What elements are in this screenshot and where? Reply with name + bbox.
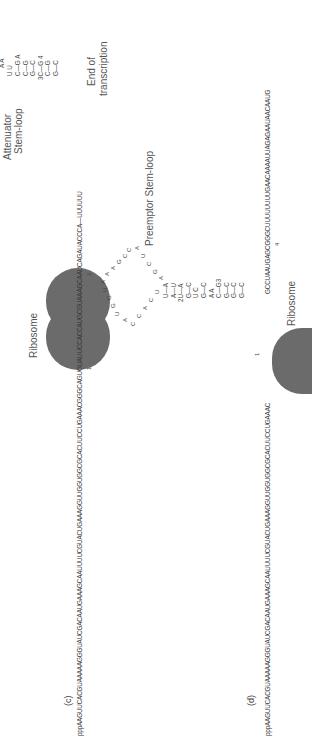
loop-base: C [148,298,154,302]
attenuator-label: Attenuator Stem-loop [2,108,24,160]
loop-base: U [102,288,108,292]
loop-base: G [106,295,112,300]
stem-pair: G—C [200,258,208,298]
figure-canvas: (c) Ribosome pppAAGUUCACGUAAAAAGGGUAUCGA… [0,0,312,746]
panel-c-ribosome-label: Ribosome [28,313,39,358]
panel-c-sequence: pppAAGUUCACGUAAAAAGGGUAUCGACAAUGAAAGCAAU… [76,191,83,736]
stem-pair: G—C [185,258,193,298]
loop-base: U [140,254,146,258]
panel-d-sequence-left: pppAAGUUCACGUAAAAAGGGUAUCGACAAUGAAAGCAAU… [264,403,271,736]
attenuator-loop-mid: U U [6,38,14,78]
panel-d-label: (d) [246,695,256,706]
stem-pair: U C [192,258,200,298]
attenuator-label-line1: Attenuator [2,108,13,160]
stem-pair: C—G3 [215,258,223,298]
panel-c-marker-2: 2 [86,273,92,276]
ribosome-d [272,328,312,394]
panel-d-sequence-right: GCCUAAUGAGCGGGCUUUUUUUUGAACAAAAUUAGAGAAU… [264,90,271,294]
preemptor-label: Preemptor Stem-loop [144,151,155,246]
panel-d-marker-1: 1 [254,353,260,356]
loop-base: A [104,272,110,276]
end-of-transcription-label: End of transcription [86,42,110,96]
panel-c-label: (c) [63,696,73,707]
attenuator-pair: C—G A [14,16,22,76]
attenuator-pair: G—C [52,16,60,76]
attenuator-label-line2: Stem-loop [13,108,24,160]
panel-d-marker-4: 4 [274,243,280,246]
end-label-line2: transcription [98,42,110,96]
stem-pair: 2U—A [177,258,185,302]
attenuator-pair: C—G [44,16,52,76]
stem-pair: G—C [230,258,238,298]
end-label-line1: End of [86,42,98,96]
loop-base: G [152,269,158,274]
loop-base: A [134,246,140,250]
panel-c-marker-1: 1 [86,367,92,370]
attenuator-pair: 3C—G 4 [37,16,45,80]
loop-base: G [110,303,116,308]
loop-base: U [114,312,120,316]
loop-base: G [116,259,122,264]
preemptor-stem: U—A A—U 2U—A G—C U C G—C A A C—G3 G—C G—… [162,258,246,298]
stem-pair: A—U [170,258,178,298]
loop-base: C [122,254,128,258]
panel-d-ribosome-label: Ribosome [286,281,297,326]
loop-base: U [154,290,160,294]
attenuator-pair: G—C [29,16,37,76]
loop-base: A [110,266,116,270]
stem-pair: G—C [238,258,246,298]
loop-base: A [100,280,106,284]
attenuator-stem: A A U U [0,38,13,78]
loop-base: C [136,314,142,318]
loop-base: C [130,322,136,326]
attenuator-stem-pairs: C—G A C—G G—C 3C—G 4 C—G G—C [14,16,60,76]
attenuator-pair: C—G [22,16,30,76]
loop-base: A [122,318,128,322]
loop-base: C [126,248,132,252]
loop-base: A [142,306,148,310]
stem-pair: U—A [162,258,170,298]
loop-base: C [146,262,152,266]
stem-pair: A A [208,258,216,298]
stem-pair: G—C [223,258,231,298]
